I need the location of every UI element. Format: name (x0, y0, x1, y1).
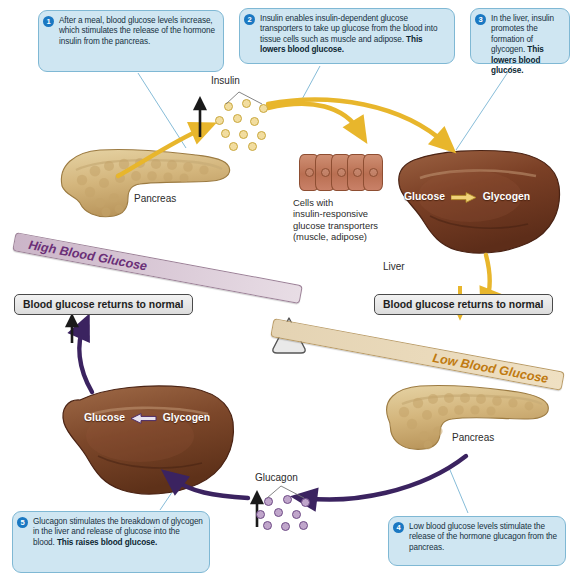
callout-number-2: 2 (244, 14, 255, 25)
liver-bottom-left-label: Glucose (84, 412, 125, 423)
callout-step-4[interactable]: 4 Low blood glucose levels stimulate the… (388, 516, 566, 566)
callout-text-1: After a meal, blood glucose levels incre… (59, 16, 215, 46)
target-cells-illustration (299, 154, 383, 190)
right-arrow-yellow-icon (451, 192, 477, 203)
low-blood-glucose-beam: Low Blood Glucose (270, 318, 565, 391)
target-cells-label: Cells with insulin-responsive glucose tr… (293, 197, 378, 243)
callout-step-3[interactable]: 3 In the liver, insulin promotes the for… (470, 8, 570, 64)
insulin-label: Insulin (211, 75, 240, 87)
insulin-label-connector (212, 90, 274, 112)
callout-number-3: 3 (475, 14, 486, 25)
liver-reaction-top: Glucose Glycogen (404, 191, 530, 203)
normal-glucose-bar-right: Blood glucose returns to normal (374, 294, 553, 315)
callout-number-1: 1 (43, 16, 54, 27)
liver-bottom-right-label: Glycogen (163, 412, 210, 423)
liver-reaction-bottom: Glucose Glycogen (84, 412, 210, 424)
glucagon-label: Glucagon (255, 472, 298, 484)
callout-number-4: 4 (393, 522, 404, 533)
callout-step-2[interactable]: 2 Insulin enables insulin-dependent gluc… (239, 8, 455, 64)
glucagon-molecule-cluster (253, 485, 315, 533)
pancreas-bottom-label: Pancreas (452, 432, 494, 444)
liver-top-right-label: Glycogen (483, 191, 530, 202)
callout-text-4: Low blood glucose levels stimulate the r… (409, 522, 557, 552)
insulin-molecule-cluster (212, 90, 274, 148)
left-arrow-purple-icon (131, 413, 157, 424)
liver-label: Liver (383, 261, 405, 273)
callout-bold-5: This raises blood glucose. (57, 538, 157, 547)
liver-top-left-label: Glucose (404, 191, 445, 202)
callout-step-1[interactable]: 1 After a meal, blood glucose levels inc… (38, 10, 224, 72)
callout-number-5: 5 (17, 517, 28, 528)
diagram-canvas: 1 After a meal, blood glucose levels inc… (0, 0, 578, 584)
glucagon-label-connector (253, 485, 315, 505)
callout-step-5[interactable]: 5 Glucagon stimulates the breakdown of g… (12, 511, 210, 573)
pancreas-top-label: Pancreas (134, 193, 176, 205)
normal-glucose-bar-left: Blood glucose returns to normal (14, 294, 193, 315)
callout-text-3: In the liver, insulin promotes the forma… (491, 14, 554, 54)
